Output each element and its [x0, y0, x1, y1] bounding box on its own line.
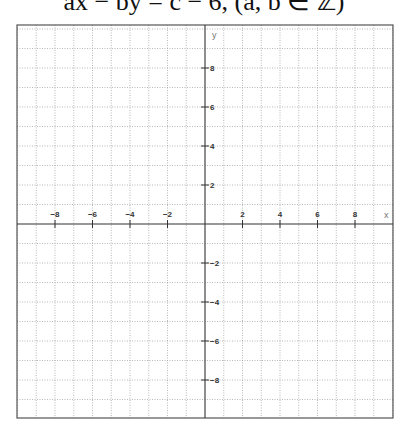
x-axis-label: x — [384, 210, 389, 220]
x-tick-label: 4 — [278, 210, 283, 219]
x-tick-label: 2 — [240, 210, 245, 219]
x-tick-label: −6 — [88, 210, 98, 219]
y-tick-label: 2 — [210, 181, 215, 190]
y-tick-label: −4 — [210, 298, 220, 307]
x-tick-label: 6 — [315, 210, 320, 219]
coordinate-plane: −8−6−4−224688642−2−4−6−8 x y — [0, 0, 408, 435]
x-tick-label: −2 — [163, 210, 173, 219]
y-tick-label: 8 — [210, 64, 215, 73]
y-tick-label: −2 — [210, 259, 220, 268]
x-tick-label: −8 — [50, 210, 60, 219]
y-tick-label: 6 — [210, 103, 215, 112]
y-axis-label: y — [212, 30, 217, 40]
x-tick-label: 8 — [353, 210, 358, 219]
axes — [17, 25, 393, 418]
y-tick-label: 4 — [210, 142, 215, 151]
y-tick-label: −6 — [210, 337, 220, 346]
y-tick-label: −8 — [210, 376, 220, 385]
x-tick-label: −4 — [125, 210, 135, 219]
